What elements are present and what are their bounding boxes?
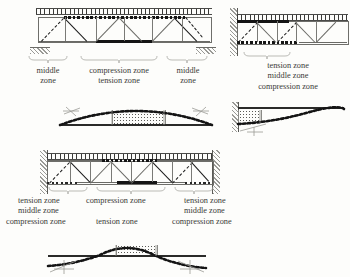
zone-label-line: tension zone [78,76,160,86]
zone-label-group-right-lower: tension zone middle zone compression zon… [172,196,232,227]
top-chord-compression-band [64,16,186,19]
web-vertical [65,17,66,41]
zone-label-group-left-lower: tension zone middle zone compression zon… [6,196,66,227]
zone-brace-left-lower [48,187,88,194]
top-chord-compression-band [237,20,289,23]
panel-simply-supported-beam-curve [54,100,218,136]
deflection-curve [232,100,348,140]
top-chord-left [47,160,103,161]
panel-cantilever-truss [230,8,348,58]
deflection-curve [42,236,212,276]
zone-label-line [86,206,146,216]
zone-brace-center [80,56,158,63]
web-vertical [124,17,125,41]
web-vertical [296,21,297,42]
zone-label-group-right: middle zone [157,66,219,87]
bottom-chord-tension-band [117,181,157,184]
zone-label-line: middle [16,66,80,76]
zone-label-line: middle zone [172,206,232,216]
zone-label-line: compression zone [232,82,344,92]
bottom-chord-tension-end-right [185,182,212,184]
zone-label-line: zone [16,76,80,86]
zone-brace-right [166,56,208,63]
web-vertical [70,161,71,182]
panel-fixed-fixed-beam-curve [42,236,212,276]
bottom-chord-right [152,41,210,42]
web-vertical [191,161,192,182]
web-vertical [152,161,153,182]
panel-simply-supported-truss [36,8,212,60]
zone-label-line: middle zone [6,206,66,216]
zone-label-line: middle zone [232,71,344,81]
bottom-chord-left [38,41,96,42]
zone-label-line: compression zone [172,217,232,227]
zone-brace-left [28,56,68,63]
support-pad-left [30,47,50,54]
zone-label-line: compression zone [6,217,66,227]
bottom-chord-tension-band [237,41,299,44]
zone-label-line: tension zone [86,217,146,227]
web-vertical [172,161,173,182]
zone-label-line: tension zone [6,196,66,206]
web-vertical [277,21,278,42]
zone-label-line: compression zone [86,196,146,206]
bottom-chord-mid-left [77,182,117,183]
zone-label-group-center-lower: compression zone tension zone [86,196,146,227]
bottom-chord-tension-end-left [47,182,77,184]
loading-deck [36,8,212,15]
web-vertical [90,161,91,182]
zone-label-group-cantilever: tension zone middle zone compression zon… [232,61,344,92]
zone-label-line: compression zone [78,66,160,76]
zone-label-line: tension zone [232,61,344,71]
zone-brace-right-lower [174,187,214,194]
web-vertical [182,17,183,41]
web-vertical [111,161,112,182]
zone-label-line: middle [157,66,219,76]
zone-label-line: tension zone [172,196,232,206]
support-pad-right [196,47,216,54]
web-vertical [257,21,258,42]
bottom-chord-outer [299,42,347,43]
deflection-curve [54,100,218,134]
web-vertical [152,17,153,41]
top-chord-right [157,160,212,161]
web-vertical [96,17,97,41]
zone-label-group-left: middle zone [16,66,80,87]
zone-brace-cantilever [243,52,291,59]
panel-cantilever-beam-curve [232,100,348,140]
zone-label-line: zone [157,76,219,86]
zone-brace-center-lower [96,187,166,194]
web-vertical [316,21,317,42]
web-vertical [131,161,132,182]
zone-label-group-center: compression zone tension zone [78,66,160,87]
